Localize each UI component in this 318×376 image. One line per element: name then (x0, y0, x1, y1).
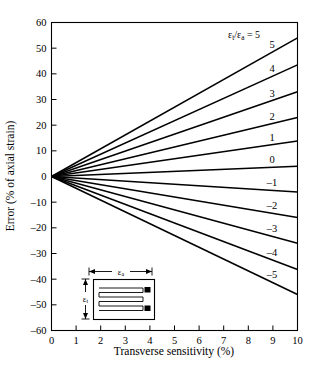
y-tick-label: 40 (36, 68, 47, 79)
x-tick-label: 0 (49, 335, 54, 346)
x-tick-label: 10 (292, 335, 303, 346)
y-tick-label: 10 (36, 145, 47, 156)
series-label-3: 3 (269, 88, 274, 99)
series-label-4: 4 (269, 63, 275, 74)
series-label--3: –3 (266, 223, 278, 234)
y-tick-label: –30 (30, 248, 47, 259)
inset-gauge-body (94, 280, 155, 320)
series-label--2: –2 (266, 200, 278, 211)
y-tick-label: –20 (30, 222, 47, 233)
x-tick-label: 1 (73, 335, 78, 346)
x-axis-title: Transverse sensitivity (%) (114, 345, 234, 358)
inset-solder-tab-bottom (145, 306, 151, 312)
series-label-1: 1 (269, 132, 274, 143)
y-tick-label: 20 (36, 120, 47, 131)
x-tick-label: 2 (98, 335, 103, 346)
y-axis-tick-labels: 6050403020100–10–20–30–40–50–60 (30, 17, 47, 336)
y-tick-label: –50 (30, 299, 47, 310)
series-label--1: –1 (266, 177, 278, 188)
x-tick-label: 6 (196, 335, 201, 346)
x-tick-label: 3 (123, 335, 128, 346)
figure-container: 6050403020100–10–20–30–40–50–60 01234567… (0, 0, 318, 376)
series-label--4: –4 (266, 247, 278, 258)
y-tick-label: –60 (30, 325, 47, 336)
x-tick-label: 5 (172, 335, 177, 346)
y-tick-label: 0 (41, 171, 46, 182)
plot-frame (52, 23, 298, 331)
y-tick-label: 60 (36, 17, 47, 28)
x-tick-label: 7 (221, 335, 226, 346)
x-tick-label: 8 (246, 335, 251, 346)
series-label--5: –5 (266, 269, 278, 280)
y-tick-label: –10 (30, 197, 47, 208)
y-tick-label: –40 (30, 274, 47, 285)
series-label-2: 2 (269, 111, 274, 122)
inset-solder-tab-top (145, 287, 151, 293)
x-axis-tick-labels: 012345678910 (49, 335, 303, 346)
chart-canvas: 6050403020100–10–20–30–40–50–60 01234567… (0, 0, 318, 376)
x-tick-label: 4 (147, 335, 153, 346)
x-tick-label: 9 (270, 335, 275, 346)
y-tick-label: 30 (36, 94, 47, 105)
series-label-5: 5 (269, 39, 274, 50)
series-label-0: 0 (269, 154, 274, 165)
y-tick-label: 50 (36, 43, 47, 54)
y-axis-title: Error (% of axial strain) (4, 121, 17, 232)
